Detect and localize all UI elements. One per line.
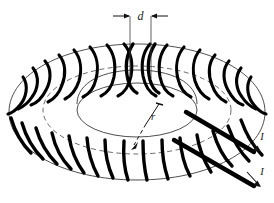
spacing-label-d: d (138, 9, 145, 23)
toroid-figure: d r I I (0, 0, 274, 203)
current-label-upper: I (259, 131, 264, 142)
current-label-lower: I (259, 166, 264, 177)
toroid-diagram-svg: d r I I (0, 0, 274, 203)
